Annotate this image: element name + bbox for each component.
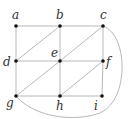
- curved-edge-c-g: [16, 26, 122, 117]
- node-label-e: e: [51, 46, 58, 60]
- node-label-f: f: [105, 55, 113, 69]
- node-f: [101, 59, 105, 63]
- node-h: [58, 94, 62, 98]
- node-label-d: d: [3, 55, 11, 69]
- node-e: [58, 59, 62, 63]
- node-c: [101, 24, 105, 28]
- curved-edges-group: [16, 26, 122, 117]
- node-b: [58, 24, 62, 28]
- node-label-b: b: [56, 8, 64, 22]
- edge-e-c: [60, 26, 103, 61]
- node-label-c: c: [100, 8, 107, 22]
- node-label-g: g: [6, 96, 14, 110]
- edge-g-e: [16, 61, 60, 96]
- node-a: [14, 24, 18, 28]
- node-label-i: i: [94, 99, 98, 113]
- edge-f-i: [102, 61, 103, 96]
- node-d: [14, 59, 18, 63]
- node-i: [100, 94, 104, 98]
- node-g: [14, 94, 18, 98]
- node-label-h: h: [56, 99, 64, 113]
- graph-diagram: abcdefghi: [0, 0, 128, 119]
- edge-h-f: [60, 61, 103, 96]
- node-label-a: a: [12, 8, 19, 22]
